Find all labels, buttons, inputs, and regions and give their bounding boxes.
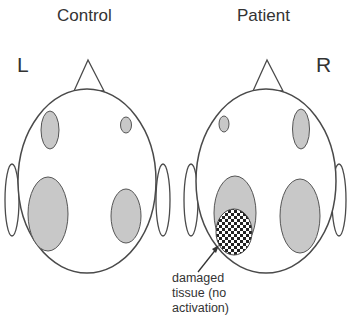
control-left-temporal-activation (28, 177, 68, 251)
annotation-line-2: tissue (no (172, 286, 229, 301)
control-left-ear (5, 164, 19, 236)
control-left-frontal-activation (41, 111, 59, 149)
patient-right-frontal-activation (293, 109, 310, 149)
patient-head (184, 60, 346, 273)
control-right-ear (156, 164, 170, 236)
patient-left-frontal-activation (219, 116, 229, 132)
control-nose (74, 60, 104, 91)
damaged-tissue-label: damaged tissue (no activation) (172, 271, 229, 316)
damage-pointer-arrow (198, 245, 219, 272)
patient-right-temporal-activation (280, 179, 320, 253)
control-right-frontal-activation (121, 117, 132, 133)
annotation-line-3: activation) (172, 301, 229, 316)
damaged-tissue-region (216, 209, 252, 255)
patient-head-outline (196, 89, 336, 273)
annotation-line-1: damaged (172, 271, 229, 286)
control-right-temporal-activation (111, 189, 141, 243)
patient-nose (253, 60, 283, 91)
control-head (5, 60, 170, 273)
